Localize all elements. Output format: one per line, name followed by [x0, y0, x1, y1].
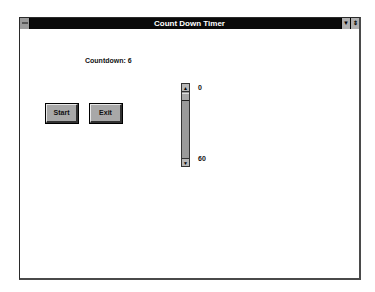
scrollbar-thumb[interactable]: [182, 93, 189, 101]
up-arrow-icon: ▲: [183, 85, 188, 91]
scroll-up-button[interactable]: ▲: [182, 84, 189, 92]
up-down-arrow-icon: ⇕: [353, 20, 358, 26]
system-menu-icon: [22, 22, 28, 24]
window-title: Count Down Timer: [154, 18, 225, 29]
down-arrow-icon: ▼: [343, 20, 349, 26]
minimize-button[interactable]: ▼: [341, 18, 350, 29]
count-down-timer-window: Count Down Timer ▼ ⇕ Countdown: 6 Start …: [19, 17, 361, 280]
client-area: Countdown: 6 Start Exit ▲ ▼ 0 60: [20, 29, 359, 278]
start-button[interactable]: Start: [46, 104, 78, 123]
scroll-down-button[interactable]: ▼: [182, 158, 189, 166]
scrollbar-min-label: 0: [198, 84, 202, 91]
down-arrow-icon: ▼: [183, 160, 188, 166]
vertical-scrollbar[interactable]: ▲ ▼: [181, 83, 190, 167]
scrollbar-max-label: 60: [198, 155, 206, 162]
system-menu-button[interactable]: [20, 18, 30, 29]
maximize-button[interactable]: ⇕: [350, 18, 359, 29]
exit-button[interactable]: Exit: [90, 104, 122, 123]
title-bar[interactable]: Count Down Timer ▼ ⇕: [20, 18, 359, 29]
countdown-label: Countdown: 6: [85, 57, 132, 64]
